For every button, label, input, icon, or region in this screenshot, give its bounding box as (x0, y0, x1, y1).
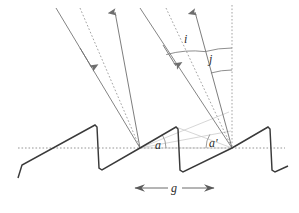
incident-ray-right (140, 8, 232, 148)
angle-arcs-upper (166, 48, 232, 73)
label-blaze-angle-a: a (155, 139, 161, 151)
grating-diagram-figure: a a' i j g (0, 0, 299, 213)
diffracted-ray-right (195, 12, 232, 148)
ray-bundle-right (140, 8, 232, 148)
incident-ray-right-arrow (163, 45, 176, 66)
arc-angle-j (211, 70, 232, 73)
ray-bundle-left (56, 8, 140, 148)
label-blaze-angle-a-prime: a' (209, 137, 218, 149)
grating-groove-profile (18, 125, 288, 178)
label-incidence-angle-i: i (184, 33, 187, 45)
label-groove-spacing-g: g (171, 182, 177, 194)
incident-ray-left-arrow (80, 48, 92, 68)
arc-angle-a (162, 134, 166, 148)
arc-angle-i (166, 51, 205, 55)
facet-normal-left-dashed (80, 8, 140, 148)
diagram-canvas (0, 0, 299, 213)
label-diffraction-angle-j: j (209, 53, 212, 65)
